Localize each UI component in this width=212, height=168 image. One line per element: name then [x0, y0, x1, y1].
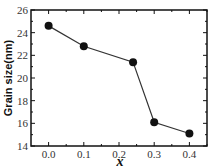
- y-tick-label: 16: [17, 117, 29, 129]
- y-tick-label: 22: [17, 49, 28, 61]
- data-point-marker: [129, 58, 137, 66]
- data-point-marker: [80, 42, 88, 50]
- y-tick-label: 20: [17, 72, 29, 84]
- y-tick-label: 18: [17, 95, 29, 107]
- x-tick-label: 0.1: [77, 148, 91, 160]
- data-series: [45, 22, 194, 138]
- data-point-marker: [150, 118, 158, 126]
- data-point-marker: [45, 22, 53, 30]
- x-axis-label: x: [116, 154, 124, 168]
- grain-size-chart: 14161820222426 0.00.10.20.30.4 Grain siz…: [0, 0, 212, 168]
- x-tick-label: 0.0: [42, 148, 56, 160]
- y-tick-label: 24: [17, 27, 29, 39]
- x-tick-label: 0.4: [183, 148, 197, 160]
- y-tick-label: 26: [17, 4, 29, 16]
- x-axis-ticks: 0.00.10.20.30.4: [42, 10, 207, 160]
- data-point-marker: [185, 130, 193, 138]
- y-tick-label: 14: [17, 140, 29, 152]
- y-axis-label: Grain size(nm): [2, 39, 14, 116]
- series-line: [49, 26, 190, 134]
- x-tick-label: 0.3: [147, 148, 161, 160]
